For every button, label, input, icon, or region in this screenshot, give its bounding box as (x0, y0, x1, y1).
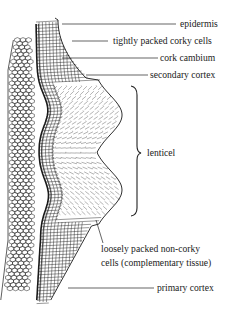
loose-cell-wall (64, 194, 65, 195)
loose-cell-wall (98, 110, 99, 111)
loose-cell-wall (94, 194, 95, 195)
loose-cell (92, 122, 96, 125)
loose-cell (103, 182, 107, 185)
loose-cell (76, 142, 81, 143)
loose-cell (66, 148, 71, 149)
loose-cell (71, 177, 75, 180)
loose-cell (102, 122, 106, 125)
loose-cell (70, 201, 74, 204)
loose-cell (100, 201, 104, 204)
loose-cell (100, 191, 104, 194)
cell-wall-h (45, 124, 59, 125)
loose-cell-wall (73, 105, 74, 106)
loose-cell (110, 201, 114, 204)
loose-cell (68, 132, 73, 134)
loose-cell-wall (115, 178, 116, 179)
cell-wall-h (47, 114, 61, 115)
loose-cell-wall (102, 100, 103, 101)
loose-cell (94, 117, 98, 120)
loose-cell (60, 127, 65, 130)
loose-cell (85, 196, 89, 199)
loose-cell (95, 106, 99, 109)
loose-cell (115, 106, 119, 109)
cell-wall-h (39, 77, 88, 79)
loose-cell-wall (117, 115, 118, 116)
loose-cell (102, 96, 106, 99)
loose-cell (93, 182, 97, 185)
loose-cell (69, 101, 73, 104)
hex-cell (13, 45, 19, 50)
loose-cell (75, 196, 79, 199)
loose-cell-wall (58, 90, 59, 91)
loose-cell-wall (79, 194, 80, 195)
loose-cell-wall (94, 173, 95, 174)
loose-cell (71, 142, 76, 143)
corky-cells-grid (36, 21, 101, 304)
loose-cell (58, 132, 63, 134)
label-secondary-cortex: secondary cortex (150, 69, 215, 80)
loose-cell (90, 106, 94, 109)
loose-cell (65, 191, 69, 194)
hex-cell (24, 286, 30, 291)
cell-wall-v (78, 70, 83, 242)
loose-cell (105, 106, 109, 109)
cell-wall-h (41, 234, 86, 236)
cell-wall-h (42, 218, 101, 221)
loose-cell (109, 101, 113, 104)
loose-cell-wall (77, 183, 78, 184)
loose-cell (64, 101, 68, 104)
loose-cell (58, 86, 62, 90)
loose-cell (61, 142, 66, 143)
loose-cell (64, 172, 69, 174)
loose-cell (104, 117, 108, 120)
loose-cell (115, 191, 119, 194)
loose-cell (105, 201, 109, 204)
loose-cell (71, 148, 76, 149)
loose-cell (85, 201, 89, 204)
loose-cell (90, 201, 94, 204)
loose-cell-wall (62, 183, 63, 184)
loose-cell (80, 196, 84, 199)
loose-cell (68, 167, 73, 169)
loose-cell (93, 167, 98, 169)
loose-cell-wall (81, 85, 82, 86)
loose-cell (95, 127, 100, 130)
loose-cell (108, 182, 112, 185)
loose-cell-wall (87, 100, 88, 101)
loose-cell (68, 86, 72, 90)
loose-cell (74, 187, 78, 190)
loose-cell (109, 187, 113, 190)
loose-cell-wall (80, 95, 81, 96)
loose-cell (110, 111, 114, 114)
loose-cell-wall (64, 189, 65, 190)
loose-cell (75, 106, 79, 109)
loose-cell (102, 211, 106, 215)
loose-cell (95, 91, 99, 95)
loose-cell (89, 117, 93, 120)
loose-cell (87, 137, 92, 139)
loose-cell (94, 101, 98, 104)
loose-cell (63, 132, 68, 134)
cell-wall-h (37, 303, 49, 304)
loose-cell (80, 201, 84, 204)
loose-cell (110, 106, 114, 109)
loose-cell-wall (101, 121, 102, 122)
loose-cell (66, 158, 71, 159)
loose-cell (77, 96, 81, 99)
loose-cell-wall (56, 136, 57, 137)
cell-wall-h (40, 251, 77, 253)
loose-cell-wall (57, 131, 58, 132)
loose-cell-wall (92, 183, 93, 184)
hex-cell (11, 59, 17, 64)
hex-cell (18, 286, 24, 291)
loose-cell-wall (71, 136, 72, 137)
loose-cell-wall (88, 90, 89, 91)
label-corky-cells: tightly packed corky cells (113, 35, 212, 46)
hex-cell (15, 38, 21, 43)
loose-cell (56, 158, 61, 159)
loose-cell (73, 167, 78, 169)
loose-cell (92, 162, 97, 164)
cell-wall-h (39, 146, 53, 147)
loose-cell (78, 206, 82, 209)
hex-cell (13, 286, 18, 291)
